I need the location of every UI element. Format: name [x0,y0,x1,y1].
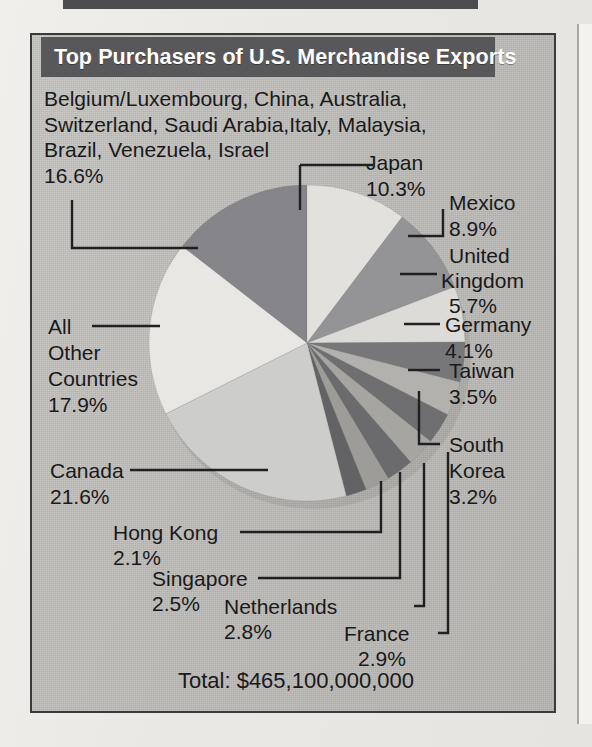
label-all-other-line1: All [48,314,71,340]
label-taiwan: Taiwan [449,358,514,384]
label-japan: Japan [366,150,423,176]
label-japan-pct: 10.3% [366,176,426,202]
label-united-kingdom-line2: Kingdom [441,268,524,294]
label-all-other-line3: Countries [48,366,138,392]
label-canada-pct: 21.6% [50,484,110,510]
label-canada: Canada [50,458,124,484]
label-south-korea-pct: 3.2% [449,484,497,510]
label-all-other-line2: Other [48,340,101,366]
total-label: Total: $465,100,000,000 [0,668,592,694]
page-title: Top Purchasers of U.S. Merchandise Expor… [41,45,517,70]
label-south-korea-line2: Korea [449,458,505,484]
label-singapore-pct: 2.5% [152,591,200,617]
label-united-kingdom-line1: United [449,243,510,269]
label-france: France [344,621,409,647]
label-all-other-pct: 17.9% [48,392,108,418]
figure-title-band: Top Purchasers of U.S. Merchandise Expor… [41,37,495,77]
label-south-korea-line1: South [449,432,504,458]
label-singapore: Singapore [152,566,248,592]
label-mexico-pct: 8.9% [449,216,497,242]
label-hong-kong: Hong Kong [113,520,218,546]
label-germany: Germany [445,312,531,338]
label-hong-kong-pct: 2.1% [113,545,161,571]
label-netherlands-pct: 2.8% [224,619,272,645]
label-mexico: Mexico [449,190,516,216]
label-netherlands: Netherlands [224,594,337,620]
label-taiwan-pct: 3.5% [449,384,497,410]
label-other-named-countries-pct: 16.6% [44,163,104,189]
